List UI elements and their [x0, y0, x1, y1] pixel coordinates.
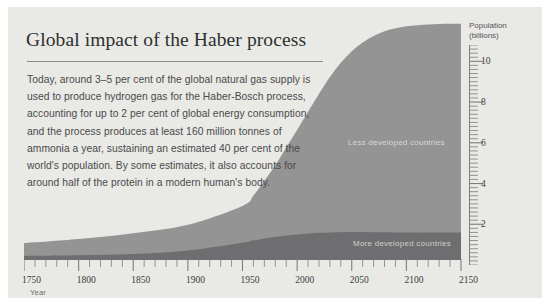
x-axis-title: Year: [30, 288, 46, 297]
body-paragraph: Today, around 3–5 per cent of the global…: [27, 71, 327, 191]
x-axis-tick-label: 2000: [295, 275, 314, 285]
series-label-more-developed: More developed countries: [353, 239, 451, 248]
x-axis-tick-label: 1850: [131, 275, 150, 285]
x-axis-tick-label: 2150: [459, 275, 478, 285]
x-axis-ruler: [24, 259, 484, 273]
x-axis-tick-label: 2050: [350, 275, 369, 285]
x-axis-tick-label: 2100: [404, 275, 423, 285]
y-axis-title-line1: Population: [469, 21, 507, 30]
x-axis-tick-label: 1950: [241, 275, 260, 285]
y-axis-title: Population (billions): [469, 21, 539, 41]
infographic-canvas: Global impact of the Haber process Today…: [0, 0, 550, 305]
y-axis-title-line2: (billions): [469, 31, 499, 40]
y-axis-ruler: [469, 45, 533, 265]
page-title: Global impact of the Haber process: [26, 29, 326, 51]
title-divider: [27, 61, 323, 62]
y-axis-tick-label: 10: [481, 56, 491, 66]
y-axis-tick-label: 2: [481, 219, 486, 229]
x-axis-tick-label: 1800: [77, 275, 96, 285]
infographic-card: Global impact of the Haber process Today…: [8, 7, 542, 298]
x-axis: Year 17501800185019001950200020502100215…: [24, 259, 484, 298]
y-axis-tick-label: 6: [481, 138, 486, 148]
y-axis-tick-label: 8: [481, 97, 486, 107]
x-axis-tick-label: 1750: [22, 275, 41, 285]
x-axis-tick-label: 1900: [186, 275, 205, 285]
series-label-less-developed: Less developed countries: [348, 138, 445, 147]
y-axis: Population (billions) 246810: [461, 21, 539, 267]
y-axis-tick-label: 4: [481, 179, 486, 189]
